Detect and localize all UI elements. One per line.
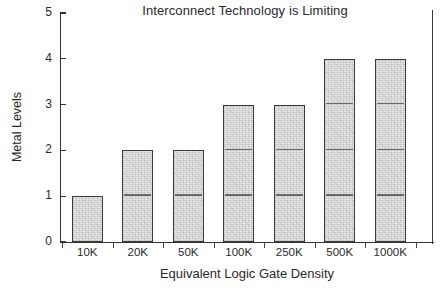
- y-tick-label-5: 5: [28, 5, 52, 19]
- x-tick-7: [416, 243, 417, 248]
- x-tick-label-1000K: 1000K: [365, 246, 415, 258]
- bar-level-divider: [326, 103, 353, 105]
- x-tick-label-250K: 250K: [264, 246, 314, 258]
- x-tick-label-100K: 100K: [214, 246, 264, 258]
- bar-500K: [324, 59, 355, 242]
- bar-10K: [72, 196, 103, 242]
- bar-level-divider: [124, 194, 151, 196]
- bar-20K: [122, 150, 153, 242]
- x-axis-title: Equivalent Logic Gate Density: [60, 266, 434, 281]
- bar-250K: [274, 105, 305, 242]
- y-tick-label-4: 4: [28, 51, 52, 65]
- bar-1000K: [375, 59, 406, 242]
- y-tick-2: [60, 150, 66, 151]
- x-tick-label-500K: 500K: [315, 246, 365, 258]
- bar-level-divider: [326, 194, 353, 196]
- bar-level-divider: [276, 149, 303, 151]
- y-axis-title: Metal Levels: [10, 77, 24, 177]
- y-axis-line: [60, 13, 61, 243]
- bar-level-divider: [377, 149, 404, 151]
- x-axis-line: [60, 242, 434, 243]
- x-tick-label-50K: 50K: [163, 246, 213, 258]
- bar-level-divider: [377, 194, 404, 196]
- x-tick-label-20K: 20K: [113, 246, 163, 258]
- y-tick-label-0: 0: [28, 234, 52, 248]
- bar-level-divider: [326, 149, 353, 151]
- bar-50K: [173, 150, 204, 242]
- bar-chart: Interconnect Technology is Limiting Meta…: [0, 0, 443, 291]
- y-tick-1: [60, 196, 66, 197]
- bar-level-divider: [377, 103, 404, 105]
- bar-level-divider: [276, 194, 303, 196]
- y-tick-label-1: 1: [28, 188, 52, 202]
- y-tick-4: [60, 58, 66, 59]
- y-tick-label-3: 3: [28, 97, 52, 111]
- bar-level-divider: [225, 149, 252, 151]
- bar-100K: [223, 105, 254, 242]
- bar-level-divider: [225, 194, 252, 196]
- y-tick-label-2: 2: [28, 142, 52, 156]
- y-tick-5: [60, 12, 66, 13]
- bar-level-divider: [175, 194, 202, 196]
- plot-right-rule: [432, 10, 433, 244]
- chart-title: Interconnect Technology is Limiting: [120, 3, 370, 18]
- x-tick-label-10K: 10K: [62, 246, 112, 258]
- y-tick-3: [60, 104, 66, 105]
